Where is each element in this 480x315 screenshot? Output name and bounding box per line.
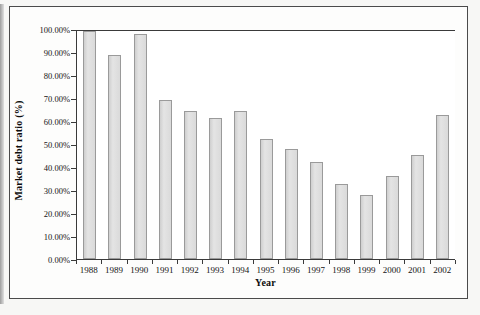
x-axis-tick-mark xyxy=(303,260,304,264)
bar-chart: 0.00%10.00%20.00%30.00%40.00%50.00%60.00… xyxy=(0,0,480,315)
y-axis-tick-mark xyxy=(71,30,76,31)
x-axis-tick-mark xyxy=(455,260,456,264)
y-axis-tick-mark xyxy=(71,53,76,54)
y-axis-tick-label: 40.00% xyxy=(24,164,70,173)
y-axis-tick-mark xyxy=(71,99,76,100)
x-axis-tick-mark xyxy=(152,260,153,264)
x-axis-tick-mark xyxy=(101,260,102,264)
y-axis-title: Market debt ratio (%) xyxy=(13,71,24,231)
y-axis-tick-mark xyxy=(71,145,76,146)
x-axis-tick-mark xyxy=(228,260,229,264)
x-axis-tick-mark xyxy=(177,260,178,264)
y-axis-tick-mark xyxy=(71,76,76,77)
x-axis-tick-mark xyxy=(329,260,330,264)
y-axis-tick-label: 60.00% xyxy=(24,118,70,127)
y-axis-tick-label: 90.00% xyxy=(24,49,70,58)
x-axis-tick-mark xyxy=(76,260,77,264)
scanned-page: 0.00%10.00%20.00%30.00%40.00%50.00%60.00… xyxy=(0,0,480,315)
y-axis-tick-label: 100.00% xyxy=(24,26,70,35)
x-axis-tick-mark xyxy=(253,260,254,264)
y-axis-tick-label: 50.00% xyxy=(24,141,70,150)
y-axis-tick-mark xyxy=(71,214,76,215)
y-axis-tick-label: 10.00% xyxy=(24,233,70,242)
x-axis-title: Year xyxy=(76,277,455,288)
y-axis-tick-mark xyxy=(71,122,76,123)
y-axis-tick-mark xyxy=(71,237,76,238)
x-axis-tick-mark xyxy=(202,260,203,264)
x-axis-tick-mark xyxy=(430,260,431,264)
x-axis-tick-mark xyxy=(127,260,128,264)
y-axis-tick-label: 20.00% xyxy=(24,210,70,219)
y-axis-tick-label: 30.00% xyxy=(24,187,70,196)
y-axis-tick-label: 70.00% xyxy=(24,95,70,104)
y-axis-tick-label: 0.00% xyxy=(24,256,70,265)
x-axis-tick-mark xyxy=(354,260,355,264)
y-axis-tick-label: 80.00% xyxy=(24,72,70,81)
y-axis-tick-mark xyxy=(71,191,76,192)
x-axis-tick-label: 2002 xyxy=(427,265,457,275)
y-axis-tick-mark xyxy=(71,168,76,169)
x-axis-tick-mark xyxy=(404,260,405,264)
x-axis-tick-mark xyxy=(278,260,279,264)
x-axis-tick-mark xyxy=(379,260,380,264)
